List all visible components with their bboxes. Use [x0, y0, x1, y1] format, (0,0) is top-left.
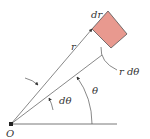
- theta-label: θ: [92, 85, 98, 96]
- radius-label: r: [71, 41, 77, 52]
- dtheta-arc: [49, 98, 53, 110]
- dr-label: dr: [91, 9, 103, 20]
- polar-area-element-diagram: O r dr r dθ dθ θ: [0, 0, 150, 139]
- radial-line-upper: [11, 29, 92, 124]
- radial-line-lower: [11, 55, 102, 124]
- theta-arc: [77, 77, 92, 124]
- origin-label: O: [6, 128, 14, 139]
- arc-length-label: r dθ: [119, 66, 139, 77]
- angle-pointer-arrow: [25, 78, 38, 85]
- arc-length-leader: [101, 47, 117, 70]
- origin-point: [9, 122, 13, 126]
- dtheta-label: dθ: [59, 95, 71, 106]
